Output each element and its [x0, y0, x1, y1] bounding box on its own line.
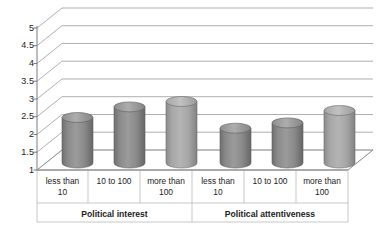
- category-label-1: 10 to 100: [88, 174, 140, 200]
- y-axis: [34, 26, 38, 171]
- y-axis-tick-labels: 5 4.5 4 3.5 3 2.5 2 1.5 1: [0, 0, 34, 233]
- category-label-4: 10 to 100: [244, 174, 296, 200]
- y-tick-label: 4.5: [8, 41, 34, 50]
- y-tick-label: 2: [8, 130, 34, 139]
- y-tick-label: 1: [8, 166, 34, 175]
- category-label-line1: less than: [201, 176, 235, 187]
- category-label-line2: 10: [213, 187, 222, 198]
- category-label-line1: less than: [46, 176, 80, 187]
- category-label-line2: 100: [315, 187, 329, 198]
- category-label-2: more than 100: [140, 174, 192, 200]
- category-label-line1: 10 to 100: [97, 176, 132, 187]
- group-label-political-attentiveness: Political attentiveness: [192, 206, 348, 222]
- y-tick-label: 1.5: [8, 148, 34, 157]
- category-label-line1: 10 to 100: [253, 176, 288, 187]
- bar-chart: 5 4.5 4 3.5 3 2.5 2 1.5 1 less than 10 1…: [0, 0, 389, 233]
- category-label-line1: more than: [303, 176, 341, 187]
- y-tick-label: 3: [8, 95, 34, 104]
- category-label-line2: 10: [58, 187, 67, 198]
- bar-2: [166, 97, 197, 169]
- y-tick-label: 5: [8, 24, 34, 33]
- bar-0: [62, 113, 93, 169]
- category-label-line2: 100: [159, 187, 173, 198]
- y-tick-label: 3.5: [8, 77, 34, 86]
- y-tick-label: 4: [8, 59, 34, 68]
- y-tick-label: 2.5: [8, 112, 34, 121]
- category-label-3: less than 10: [192, 174, 244, 200]
- category-label-line1: more than: [147, 176, 185, 187]
- bar-5: [324, 106, 355, 169]
- category-label-0: less than 10: [37, 174, 88, 200]
- category-label-5: more than 100: [296, 174, 348, 200]
- bar-1: [114, 102, 145, 168]
- bar-3: [220, 123, 251, 168]
- group-label-political-interest: Political interest: [37, 206, 192, 222]
- bar-4: [272, 118, 303, 168]
